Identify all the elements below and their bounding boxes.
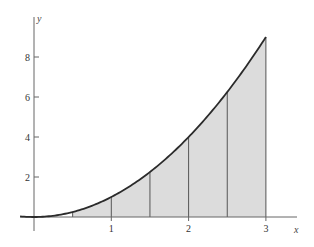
chart: 123 2468 x y xyxy=(0,0,314,247)
y-tick-label: 4 xyxy=(25,132,30,143)
x-tick-label: 1 xyxy=(109,223,114,234)
y-tick-label: 6 xyxy=(25,92,30,103)
y-tick-label: 2 xyxy=(25,172,30,183)
shaded-region xyxy=(73,37,266,217)
x-tick-label: 3 xyxy=(263,223,268,234)
y-axis-label: y xyxy=(36,13,42,24)
x-axis-label: x xyxy=(293,224,299,235)
y-tick-label: 8 xyxy=(25,52,30,63)
x-tick-label: 2 xyxy=(186,223,191,234)
y-ticks: 2468 xyxy=(25,52,39,183)
x-ticks: 123 xyxy=(109,217,269,234)
shaded-area-under-curve xyxy=(73,37,266,217)
